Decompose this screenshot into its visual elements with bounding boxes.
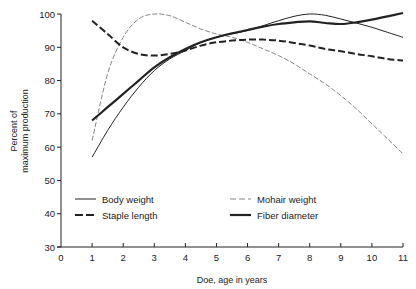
y-tick-label: 30 <box>44 242 55 253</box>
y-axis-title-line-2: maximum production <box>20 89 30 173</box>
x-tick-label: 7 <box>276 252 281 263</box>
legend-item-mohair-weight: Mohair weight <box>230 194 316 205</box>
x-tick-label: 6 <box>245 252 250 263</box>
x-axis: 01234567891011 <box>57 243 408 263</box>
x-tick-label: 3 <box>152 252 157 263</box>
y-tick-label: 60 <box>44 142 55 153</box>
series-layer <box>92 13 403 157</box>
x-tick-label: 2 <box>121 252 126 263</box>
y-axis: 30405060708090100 <box>39 9 61 253</box>
x-tick-label: 11 <box>398 252 408 263</box>
x-tick-label: 4 <box>183 252 188 263</box>
x-tick-label: 0 <box>58 252 63 263</box>
series-fiber-diameter <box>92 13 403 121</box>
series-body-weight <box>92 14 403 157</box>
x-tick-label: 8 <box>307 252 312 263</box>
y-axis-title-line-1: Percent of <box>9 110 19 152</box>
y-tick-label: 90 <box>44 42 55 53</box>
legend: Body weightMohair weightStaple lengthFib… <box>75 194 318 221</box>
y-tick-label: 50 <box>44 175 55 186</box>
y-tick-label: 40 <box>44 208 55 219</box>
series-staple-length <box>92 21 403 61</box>
legend-label: Mohair weight <box>257 194 316 205</box>
y-tick-label: 100 <box>39 9 55 20</box>
x-axis-title: Doe, age in years <box>197 275 268 285</box>
legend-label: Staple length <box>102 210 157 221</box>
x-tick-label: 1 <box>89 252 94 263</box>
legend-item-fiber-diameter: Fiber diameter <box>230 210 318 221</box>
y-tick-label: 80 <box>44 75 55 86</box>
y-tick-label: 70 <box>44 108 55 119</box>
legend-item-staple-length: Staple length <box>75 210 157 221</box>
legend-item-body-weight: Body weight <box>75 194 154 205</box>
legend-label: Body weight <box>102 194 154 205</box>
x-tick-label: 9 <box>338 252 343 263</box>
legend-label: Fiber diameter <box>257 210 318 221</box>
series-mohair-weight <box>92 14 403 154</box>
x-tick-label: 5 <box>214 252 219 263</box>
line-chart: 30405060708090100 01234567891011 Body we… <box>0 0 416 289</box>
x-tick-label: 10 <box>367 252 378 263</box>
